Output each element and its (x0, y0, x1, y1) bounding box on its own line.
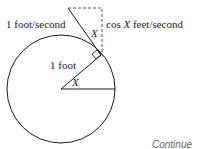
center-angle-label: X (71, 76, 80, 88)
velocity-label: 1 foot/second (6, 18, 66, 30)
tangent-angle-label: X (90, 27, 99, 39)
vertical-component-label: cos X feet/second (106, 18, 183, 30)
circle-diagram: 1 foot/second cos X feet/second X 1 foot… (0, 0, 201, 149)
continue-text: Continue (152, 139, 192, 149)
radius-label: 1 foot (50, 59, 76, 71)
